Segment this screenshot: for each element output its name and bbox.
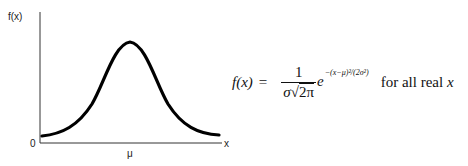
mean-label: μ: [127, 148, 133, 159]
qualifier-text: for all real: [381, 74, 447, 90]
formula-denominator: σ√2π: [281, 82, 316, 101]
normal-distribution-plot: f(x) 0 x μ: [0, 0, 240, 166]
formula-qualifier: for all real x: [381, 74, 454, 91]
sigma-symbol: σ: [283, 84, 290, 100]
normal-pdf-formula: f(x) = 1 σ√2π e −(x−μ)²/(2σ²) for all re…: [232, 62, 454, 102]
x-axis-label: x: [224, 138, 229, 149]
qualifier-variable: x: [447, 74, 454, 90]
bell-curve: [42, 42, 219, 136]
y-axis-label: f(x): [8, 11, 22, 22]
formula-fraction: 1 σ√2π: [281, 64, 316, 101]
origin-label: 0: [30, 138, 36, 149]
formula-equals: =: [259, 74, 267, 91]
sqrt-radicand: 2π: [299, 83, 314, 100]
formula-lhs: f(x): [232, 74, 253, 91]
formula-numerator: 1: [293, 64, 305, 82]
sqrt-symbol: √: [291, 84, 299, 100]
formula-exponent: −(x−μ)²/(2σ²): [325, 68, 369, 77]
formula-base: e: [317, 73, 324, 90]
